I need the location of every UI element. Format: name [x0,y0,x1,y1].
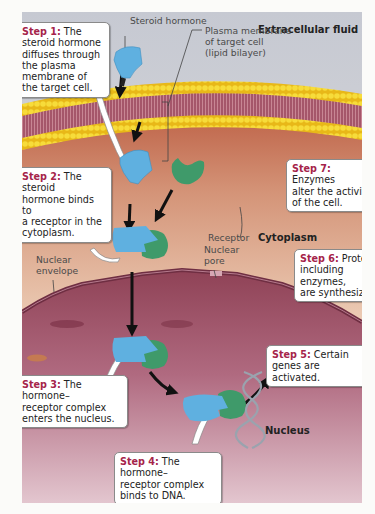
step-text: binds to DNA. [120,490,186,501]
label-nuclear-envelope: Nuclear envelope [36,254,78,276]
step-text: The [61,26,82,37]
step-title: Step 3: [22,379,61,390]
callout-step-4: Step 4: The hormone– receptor complex bi… [114,452,222,503]
callout-step-1: Step 1: The steroid hormone diffuses thr… [22,22,110,98]
label-line: Nuclear [204,244,239,255]
label-line: envelope [36,265,78,276]
steroid-hormone-diagram: Extracellular fluid Cytoplasm Nucleus St… [22,12,362,503]
step-title: Step 1: [22,26,61,37]
step-text: hormone binds to [22,194,94,216]
step-text: receptor complex [22,402,106,413]
step-text: the plasma [22,60,76,71]
step-title: Step 6: [300,253,339,264]
step-text: including enzymes, [300,264,346,286]
step-text: of the cell. [292,197,343,208]
region-label-cytoplasm: Cytoplasm [258,232,317,243]
label-nuclear-pore: Nuclear pore [204,244,239,266]
label-line: (lipid bilayer) [205,47,291,58]
callout-step-2: Step 2: The steroid hormone binds to a r… [22,167,112,243]
step-text: the target cell. [22,82,93,93]
step-text: steroid hormone [22,37,101,48]
nuclear-pore [210,271,222,276]
region-label-nucleus: Nucleus [265,425,310,436]
label-receptor: Receptor [208,232,249,243]
step-text: a receptor in the [22,216,102,227]
callout-step-5: Step 5: Certain genes are activated. [266,345,362,387]
step-text: are synthesized. [300,287,362,298]
step-text: cytoplasm. [22,227,75,238]
label-line: of target cell [205,36,291,47]
callout-step-3: Step 3: The hormone– receptor complex en… [22,375,128,428]
step-text: alter the activity [292,186,362,197]
label-line: Plasma membrane [205,25,291,36]
step-title: Step 4: [120,456,159,467]
step-text: genes are activated. [272,360,320,382]
step-text: Proteins, [339,253,362,264]
step-title: Step 2: [22,171,61,182]
step-title: Step 5: [272,349,311,360]
step-text: enters the nucleus. [22,413,115,424]
label-steroid-hormone: Steroid hormone [130,15,207,26]
label-line: pore [204,255,239,266]
label-plasma-membrane: Plasma membrane of target cell (lipid bi… [205,25,291,58]
step-text: diffuses through [22,49,100,60]
label-line: Nuclear [36,254,78,265]
callout-step-6: Step 6: Proteins, including enzymes, are… [294,249,362,302]
step-text: Enzymes [292,174,335,185]
step-text: membrane of [22,71,87,82]
callout-step-7: Step 7: Enzymes alter the activity of th… [286,159,362,212]
step-title: Step 7: [292,163,331,174]
step-text: Certain [311,349,349,360]
step-text: receptor complex [120,479,204,490]
